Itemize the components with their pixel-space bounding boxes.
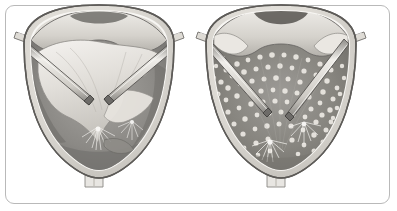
panel-left-description: Bladder interior, smooth mucosa with pro… [0,0,1,1]
panel-left-pre-treatment [8,0,190,199]
panel-right-post-treatment [190,0,372,199]
left-panel-drawing [8,0,190,199]
panel-right-label: Right panel [0,0,1,1]
figure-root: Cystoscopic comparison of bladder mucosa… [0,0,397,211]
right-panel-drawing [190,0,372,199]
panel-left-label: Left panel [0,0,1,1]
panel-right-description: Bladder interior showing diffuse speckle… [0,0,1,1]
figure-title: Cystoscopic comparison of bladder mucosa [0,0,1,1]
